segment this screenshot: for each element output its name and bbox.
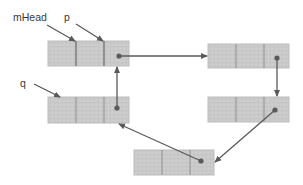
next-pointer-dot xyxy=(114,105,119,110)
next-pointer-dot xyxy=(272,107,277,112)
next-pointer-dot xyxy=(274,55,279,60)
mhead-pointer-arrow xyxy=(47,25,75,41)
p-label: p xyxy=(64,11,70,23)
node-1 xyxy=(48,41,129,66)
linked-list-diagram: mHead p q xyxy=(0,0,303,185)
mhead-label: mHead xyxy=(13,11,47,23)
p-pointer-arrow xyxy=(76,24,103,41)
q-pointer-arrow xyxy=(34,84,60,97)
q-label: q xyxy=(20,77,26,89)
next-pointer-dot xyxy=(198,158,203,163)
next-pointer-dot xyxy=(116,53,121,58)
